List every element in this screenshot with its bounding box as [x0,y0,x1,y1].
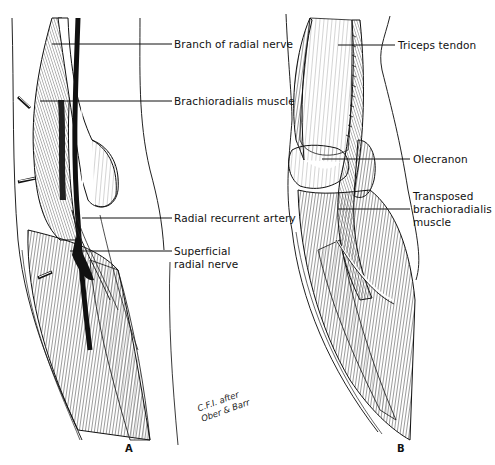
label-line-1: Transposed [413,190,495,203]
panel-letter-a: A [125,443,133,454]
label-line-3: muscle [413,216,495,229]
label-line-1: Superficial [174,245,238,258]
label-line-2: radial nerve [174,258,238,271]
label-olecranon: Olecranon [413,153,468,166]
panel-b-drawing [286,14,419,440]
panel-letter-b: B [397,443,405,454]
label-line-2: brachioradialis [413,203,495,216]
label-triceps-tendon: Triceps tendon [398,39,476,52]
label-transposed-brachioradialis-muscle: Transposed brachioradialis muscle [413,190,495,229]
label-branch-of-radial-nerve: Branch of radial nerve [174,38,293,51]
anatomical-illustration [0,0,495,465]
label-brachioradialis-muscle: Brachioradialis muscle [174,95,295,108]
panel-a-drawing [12,18,178,445]
label-radial-recurrent-artery: Radial recurrent artery [174,212,296,225]
label-superficial-radial-nerve: Superficial radial nerve [174,245,238,271]
